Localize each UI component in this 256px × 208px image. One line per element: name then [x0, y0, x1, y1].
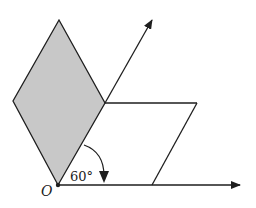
origin-label: O	[41, 183, 53, 199]
arc-arrowhead-icon	[99, 171, 109, 183]
origin-point	[56, 183, 60, 187]
dihedral-angle-diagram: 60° O	[0, 0, 256, 208]
oblique-axis-ray	[105, 20, 152, 103]
angle-label: 60°	[70, 169, 93, 184]
parallelogram-right-edge	[152, 103, 197, 185]
shaded-rhombus-plane	[13, 20, 105, 185]
diagram-canvas: 60° O	[0, 0, 256, 208]
